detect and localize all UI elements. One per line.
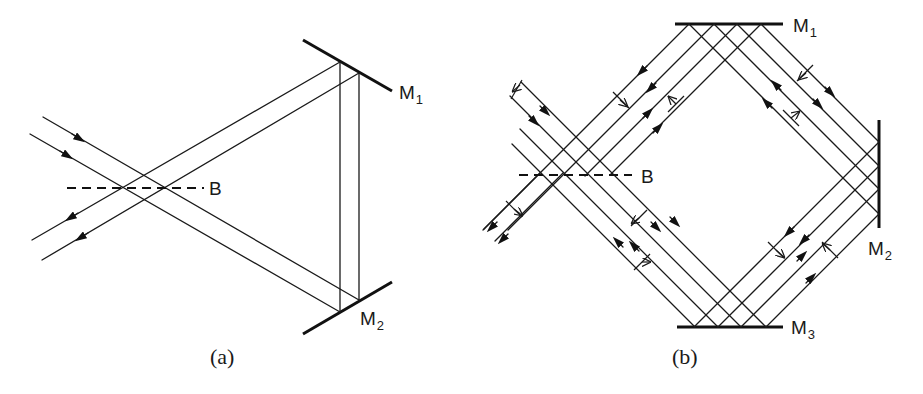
caption-a: (a) [210, 344, 234, 369]
beam-b-m1m2-2 [714, 24, 879, 189]
arrow-a-out-2 [80, 233, 88, 238]
beam-b-m2m3-1 [695, 142, 879, 326]
arrow-b-12 [502, 234, 508, 240]
arrow-b-9 [825, 87, 831, 93]
mirror-label-m2-a: M2 [360, 308, 384, 333]
beam-b-m2m3-4 [766, 214, 879, 327]
beam-b-out-1 [484, 173, 540, 229]
beam-a-down-1 [43, 117, 359, 300]
beam-b-bm1-4 [610, 24, 761, 175]
pol-tick-b-3-arrow [668, 96, 676, 104]
arrow-b-11 [491, 222, 497, 228]
beam-b-m3b-2 [520, 129, 718, 327]
arrow-b-19 [797, 255, 803, 261]
pol-tick-b-10-arrow [822, 243, 830, 250]
pol-tick-b-2-arrow [620, 100, 628, 107]
arrow-b-6 [653, 127, 659, 133]
beam-b-m2m3-3 [741, 189, 879, 327]
arrow-b-15 [651, 222, 657, 228]
arrow-b-2 [529, 116, 535, 122]
arrow-b-7 [775, 84, 781, 90]
beam-b-m1m2-4 [761, 24, 879, 142]
pol-tick-b-5-arrow [791, 111, 800, 118]
panel-a: B M1 M2 (a) [30, 40, 423, 369]
mirror-label-m3-b: M3 [791, 317, 815, 342]
arrow-b-10 [813, 99, 819, 105]
beam-b-bm1-3 [585, 24, 737, 176]
caption-b: (b) [672, 344, 698, 369]
pol-tick-b-6-arrow [514, 209, 523, 216]
mirror-label-m1-a: M1 [399, 82, 423, 107]
beamsplitter-label-b: B [641, 166, 654, 187]
arrow-b-17 [788, 227, 794, 233]
beam-b-m3b-1 [512, 144, 695, 327]
pol-tick-b-1 [511, 80, 522, 99]
arrow-a-in-1 [72, 134, 80, 139]
beamsplitter-label-a: B [209, 178, 222, 199]
panel-b: B M1 M2 M3 (b) [483, 15, 892, 369]
mirror-m1-a [303, 40, 392, 91]
arrow-b-3 [641, 66, 647, 72]
arrow-b-18 [803, 235, 809, 241]
arrow-b-13 [617, 241, 623, 247]
arrow-a-out-1 [70, 213, 78, 218]
arrow-b-16 [670, 217, 676, 223]
mirror-label-m1-b: M1 [793, 15, 817, 40]
arrow-b-4 [650, 83, 656, 89]
pol-tick-b-9-arrow [776, 250, 785, 258]
arrow-b-5 [643, 112, 649, 118]
beam-b-m3b-3 [510, 96, 741, 327]
arrow-b-8 [766, 102, 772, 108]
beam-a-down-2 [30, 134, 340, 312]
beam-b-m3b-4 [521, 82, 766, 327]
interferometer-figure: B M1 M2 (a) [0, 0, 923, 394]
arrow-a-in-2 [60, 151, 68, 156]
mirror-label-m2-b: M2 [868, 238, 892, 263]
beam-b-m1m2-3 [737, 24, 879, 166]
beam-b-m1m2-1 [689, 24, 879, 214]
beam-b-bm1-2 [508, 24, 714, 230]
pol-tick-b-4-arrow [798, 73, 806, 80]
